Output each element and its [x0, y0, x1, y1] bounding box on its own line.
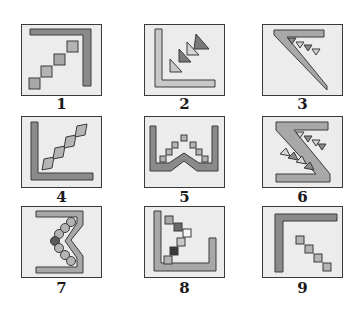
- panel-7-figure: [21, 206, 102, 278]
- panel-4: [21, 116, 102, 188]
- panel-2-figure: [144, 24, 225, 96]
- panel-9-figure: [262, 206, 343, 278]
- panel-9-label: 9: [262, 281, 343, 296]
- panel-2: [144, 24, 225, 96]
- panel-5-label: 5: [144, 190, 225, 205]
- panel-8-figure: [144, 206, 225, 278]
- panel-1-label: 1: [21, 97, 102, 112]
- panel-3-label: 3: [262, 97, 343, 112]
- panel-4-figure: [21, 116, 102, 188]
- panel-5-figure: [144, 116, 225, 188]
- panel-6-figure: [262, 116, 343, 188]
- panel-7: [21, 206, 102, 278]
- panel-4-label: 4: [21, 190, 102, 205]
- panel-8: [144, 206, 225, 278]
- panel-2-label: 2: [144, 97, 225, 112]
- panel-8-label: 8: [144, 281, 225, 296]
- panel-6-label: 6: [262, 190, 343, 205]
- panel-3: [262, 24, 343, 96]
- panel-1: [21, 24, 102, 96]
- panel-5: [144, 116, 225, 188]
- panel-7-label: 7: [21, 281, 102, 296]
- panel-3-figure: [262, 24, 343, 96]
- panel-6: [262, 116, 343, 188]
- panel-1-figure: [21, 24, 102, 96]
- panel-9: [262, 206, 343, 278]
